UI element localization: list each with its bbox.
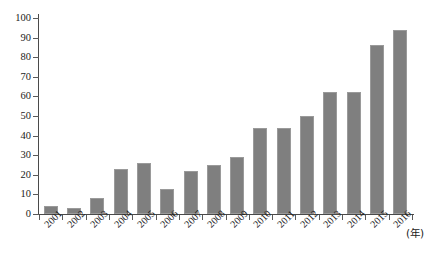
- x-axis-unit-label: (年): [406, 228, 424, 239]
- y-axis-tick-label: 30: [0, 150, 31, 160]
- plot-area: [39, 18, 412, 214]
- bar-chart-figure: 0102030405060708090100 20012002200320042…: [0, 0, 432, 259]
- y-axis-tick-label: 70: [0, 72, 31, 82]
- y-axis-tick-label: 0: [0, 209, 31, 219]
- y-axis-tick-label: 100: [0, 13, 31, 23]
- y-axis-tick-label-text: 10: [3, 189, 31, 199]
- y-axis-tick-label: 40: [0, 131, 31, 141]
- bar: [137, 163, 151, 214]
- bar: [347, 92, 361, 214]
- y-axis-tick-label-text: 30: [3, 150, 31, 160]
- bar: [277, 128, 291, 214]
- y-axis-tick-label-text: 40: [3, 131, 31, 141]
- y-axis-tick-label-text: 50: [3, 111, 31, 121]
- bar: [323, 92, 337, 214]
- x-axis-tick: [39, 215, 40, 220]
- y-axis-tick-label-text: 100: [3, 13, 31, 23]
- y-axis-tick-label-text: 80: [3, 52, 31, 62]
- bar: [370, 45, 384, 214]
- y-axis-tick-label-text: 0: [3, 209, 31, 219]
- y-axis-tick-label-text: 90: [3, 33, 31, 43]
- y-axis-tick-label: 80: [0, 52, 31, 62]
- y-axis-tick-label-text: 20: [3, 170, 31, 180]
- y-axis-tick-label-text: 70: [3, 72, 31, 82]
- bar: [230, 157, 244, 214]
- bar: [253, 128, 267, 214]
- y-axis-tick-label: 10: [0, 189, 31, 199]
- y-axis-tick-label: 50: [0, 111, 31, 121]
- bar: [300, 116, 314, 214]
- y-axis-tick-label: 90: [0, 33, 31, 43]
- y-axis-tick-label-text: 60: [3, 91, 31, 101]
- y-axis-tick-label: 20: [0, 170, 31, 180]
- y-axis-tick-label: 60: [0, 91, 31, 101]
- bar: [393, 30, 407, 214]
